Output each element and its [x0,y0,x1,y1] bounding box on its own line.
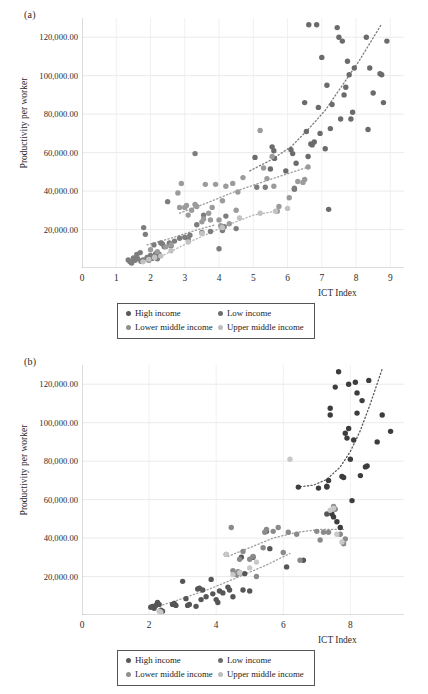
data-point [213,182,218,187]
legend-item[interactable]: High income [126,654,216,667]
data-point [185,239,190,244]
data-point [254,574,259,579]
data-point [268,166,273,171]
x-tick-label: 6 [281,621,286,630]
data-point [302,177,307,182]
low-income-trend [152,553,290,608]
legend-marker-icon [126,672,131,677]
data-point [349,498,354,503]
data-point [292,185,297,190]
chart-panel-b: (b) Productivity per worker 20,000.0040,… [0,347,428,694]
data-point [261,165,266,170]
legend-item-label: Lower middle income [135,668,213,681]
legend-item[interactable]: Lower middle income [126,321,216,334]
data-point [223,184,228,189]
data-point [220,198,225,203]
data-point [338,116,343,121]
data-point [175,190,180,195]
data-point [346,426,351,431]
y-tick-label: 120,000.00 [39,33,78,42]
legend-item[interactable]: Low income [218,654,308,667]
data-point [168,242,173,247]
data-point [317,537,322,542]
data-point [273,209,278,214]
data-point [316,105,321,110]
data-point [304,129,309,134]
data-point [328,126,333,131]
data-point [193,604,198,609]
legend-marker-icon [218,325,223,330]
y-tick-label: 40,000.00 [44,187,78,196]
data-point [252,155,257,160]
data-point [352,65,357,70]
legend-marker-icon [218,658,223,663]
data-point [306,22,311,27]
legend-b: High incomeLow incomeLower middle income… [117,650,315,686]
data-point [341,475,346,480]
data-point [346,382,351,387]
legend-item-label: Upper middle income [227,321,304,334]
data-point [314,22,319,27]
data-point [257,210,262,215]
data-point [287,457,292,462]
data-point [180,579,185,584]
data-point [240,549,245,554]
data-point [316,485,321,490]
data-point [141,225,146,230]
legend-item-label: Lower middle income [135,321,213,334]
legend-item[interactable]: High income [126,307,216,320]
legend-item[interactable]: Upper middle income [218,668,308,681]
data-point [177,205,182,210]
legend-item[interactable]: Low income [218,307,308,320]
data-point [229,525,234,530]
y-tick-label: 100,000.00 [39,418,78,427]
data-point [380,412,385,417]
data-point [203,182,208,187]
data-point [276,525,281,530]
data-point [328,406,333,411]
data-point [312,139,317,144]
data-point [290,151,295,156]
data-point [323,146,328,151]
data-point [227,221,232,226]
y-tick-label: 20,000.00 [44,225,78,234]
data-point [270,529,275,534]
data-point [324,483,329,488]
legend-marker-icon [218,311,223,316]
data-point [187,602,192,607]
y-tick-label: 100,000.00 [39,71,78,80]
data-point [286,530,291,535]
data-point [184,203,189,208]
scatter-svg-a [82,18,404,268]
data-point [293,160,298,165]
data-point [384,38,389,43]
data-point [328,412,333,417]
data-point [281,550,286,555]
data-point [140,259,145,264]
data-point [208,577,213,582]
data-point [269,154,274,159]
data-point [324,83,329,88]
data-point [302,100,307,105]
x-tick-label: 8 [354,274,359,283]
data-point [194,204,199,209]
x-tick-label: 9 [388,274,393,283]
y-tick-label: 20,000.00 [44,572,78,581]
data-point [189,208,194,213]
legend-item[interactable]: Upper middle income [218,321,308,334]
data-point [370,90,375,95]
data-point [343,431,348,436]
x-tick-label: 0 [80,274,85,283]
data-point [230,594,235,599]
data-point [305,154,310,159]
y-tick-label: 80,000.00 [44,110,78,119]
data-point [353,380,358,385]
legend-item[interactable]: Lower middle income [126,668,216,681]
data-point [183,596,188,601]
data-point [329,102,334,107]
data-point [294,532,299,537]
data-point [216,217,221,222]
data-point [336,369,341,374]
y-tick-label: 80,000.00 [44,457,78,466]
data-point [367,65,372,70]
